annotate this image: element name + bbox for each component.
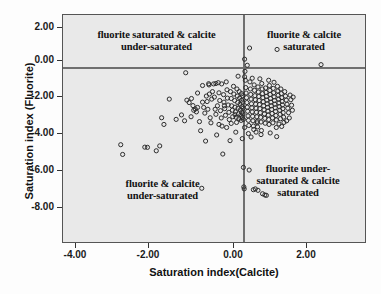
- plot-area: fluorite saturated & calcite under-satur…: [62, 14, 366, 243]
- annotation-upper-left: fluorite saturated & calcite under-satur…: [69, 29, 244, 53]
- x-axis-title: Saturation index(Calcite): [62, 266, 366, 278]
- xtick-label-0: -4.00: [55, 249, 95, 260]
- xtick-label-1: -2.00: [128, 249, 168, 260]
- annotation-upper-right: fluorite & calcite saturated: [243, 29, 365, 53]
- y-axis-title: Saturation index (Fluorite): [23, 16, 35, 246]
- xtick-mark-3: [306, 243, 307, 248]
- annotation-lower-right: fluorite under- saturated & calcite satu…: [236, 163, 360, 199]
- xtick-mark-0: [75, 243, 76, 248]
- scatter-plot-figure: 2.00 0.00 -2.00 -4.00 -6.00 -8.00 -4.00 …: [0, 0, 381, 294]
- xtick-mark-2: [233, 243, 234, 248]
- xtick-mark-1: [148, 243, 149, 248]
- xtick-label-2: 0.00: [213, 249, 253, 260]
- xtick-label-3: 2.00: [286, 249, 326, 260]
- annotation-lower-left: fluorite & calcite under-saturated: [95, 178, 230, 202]
